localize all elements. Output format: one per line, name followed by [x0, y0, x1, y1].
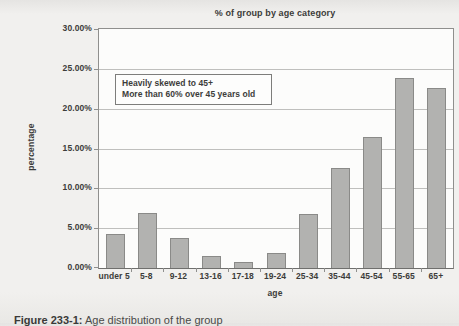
y-tick-mark: [94, 69, 99, 70]
x-tick-label: 25-34: [296, 271, 318, 281]
y-tick-label: 25.00%: [63, 63, 92, 73]
y-tick-mark: [94, 228, 99, 229]
x-tick-label: 17-18: [232, 271, 254, 281]
bar-25-34: [299, 214, 318, 268]
y-tick-label: 20.00%: [63, 103, 92, 113]
x-tick-label: 35-44: [328, 271, 350, 281]
y-tick-mark: [94, 29, 99, 30]
annotation-line-2: More than 60% over 45 years old: [122, 89, 265, 100]
gridline: [99, 69, 453, 70]
y-tick-label: 10.00%: [63, 182, 92, 192]
annotation-line-1: Heavily skewed to 45+: [122, 78, 265, 89]
y-tick-mark: [94, 267, 99, 268]
x-tick-label: 5-8: [140, 271, 153, 281]
y-axis-tick-labels: 0.00%5.00%10.00%15.00%20.00%25.00%30.00%: [0, 28, 92, 267]
x-tick-label: 65+: [429, 271, 444, 281]
bar-5-8: [138, 213, 157, 268]
x-tick-label: under 5: [98, 271, 129, 281]
bar-13-16: [202, 256, 221, 268]
figure-caption: Figure 233-1: Age distribution of the gr…: [14, 315, 223, 326]
y-tick-mark: [94, 149, 99, 150]
x-tick-label: 55-65: [393, 271, 415, 281]
y-tick-label: 5.00%: [67, 222, 92, 232]
bar-65+: [427, 88, 446, 268]
bar-45-54: [363, 137, 382, 268]
x-tick-label: 9-12: [170, 271, 187, 281]
bar-19-24: [267, 253, 286, 268]
bar-35-44: [331, 168, 350, 268]
x-tick-label: 19-24: [264, 271, 286, 281]
figure-caption-label: Figure 233-1:: [14, 314, 82, 326]
x-axis-title: age: [98, 288, 452, 298]
x-tick-label: 45-54: [360, 271, 382, 281]
chart-title: % of group by age category: [98, 8, 452, 18]
y-tick-mark: [94, 188, 99, 189]
x-axis-tick-labels: under 55-89-1213-1617-1819-2425-3435-444…: [98, 271, 452, 283]
annotation-box: Heavily skewed to 45+ More than 60% over…: [115, 74, 272, 105]
bar-under 5: [106, 234, 125, 268]
y-axis-title: percentage: [26, 123, 36, 170]
y-tick-mark: [94, 109, 99, 110]
bar-9-12: [170, 238, 189, 268]
figure-caption-text: Age distribution of the group: [85, 314, 223, 326]
y-tick-label: 15.00%: [63, 143, 92, 153]
y-tick-label: 0.00%: [67, 262, 92, 272]
bar-55-65: [395, 78, 414, 268]
y-tick-label: 30.00%: [63, 23, 92, 33]
bar-17-18: [234, 262, 253, 268]
x-tick-label: 13-16: [200, 271, 222, 281]
plot-area: [98, 28, 454, 269]
